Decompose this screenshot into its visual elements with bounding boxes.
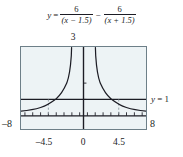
equation-first-denominator-text: x − 1.5 xyxy=(64,15,88,25)
y-axis-max-label: 3 xyxy=(62,32,84,42)
equation-first-denominator: (x − 1.5) xyxy=(60,16,92,25)
horizontal-asymptote-label: y = 1 xyxy=(151,94,169,104)
equation-second-denominator-text: x + 1.5 xyxy=(107,15,131,25)
plot-svg xyxy=(21,47,146,129)
equation-equals-sign: = xyxy=(51,10,60,20)
horizontal-asymptote-label-value: = 1 xyxy=(155,94,169,104)
equation-second-fraction: 6 (x + 1.5) xyxy=(104,5,136,25)
equation-caption: y= 6 (x − 1.5) − 6 (x + 1.5) xyxy=(0,6,183,26)
graph-screenshot: y= 6 (x − 1.5) − 6 (x + 1.5) 3 xyxy=(0,0,183,157)
equation-operator: − xyxy=(93,10,104,20)
curve-right-branch xyxy=(95,48,146,111)
x-tick-label-negative-4-5: –4.5 xyxy=(31,137,57,147)
curve-left-branch xyxy=(21,48,72,111)
equation-second-denominator: (x + 1.5) xyxy=(104,16,136,25)
x-axis-max-label: 8 xyxy=(150,118,155,129)
x-axis-min-label: –8 xyxy=(2,118,12,129)
equation-first-fraction: 6 (x − 1.5) xyxy=(60,5,92,25)
x-tick-label-positive-4-5: 4.5 xyxy=(106,137,132,147)
equation-second-numerator: 6 xyxy=(104,5,136,14)
plot-area xyxy=(20,46,147,130)
equation-first-numerator: 6 xyxy=(60,5,92,14)
x-tick-label-zero: 0 xyxy=(72,137,94,147)
